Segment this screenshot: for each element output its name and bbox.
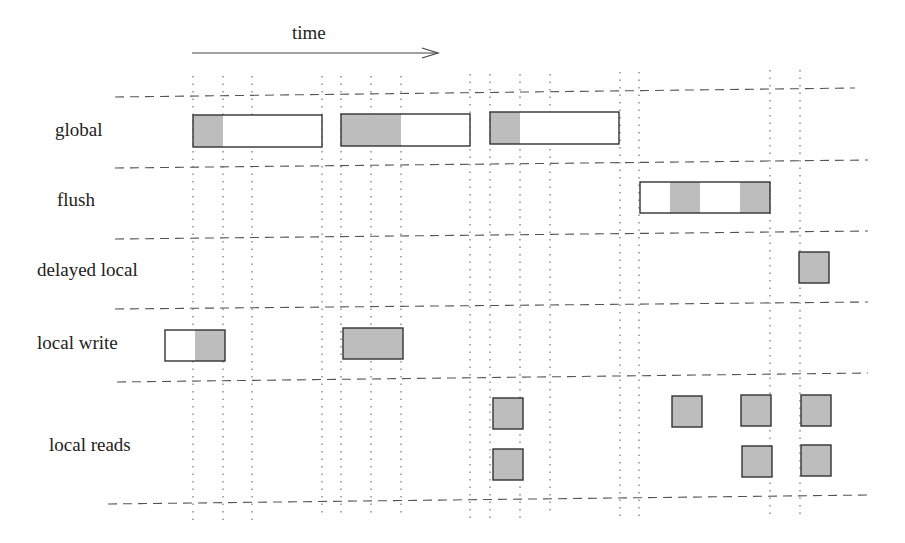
operation-box-flush	[640, 182, 770, 213]
operation-box-local-write	[343, 328, 403, 359]
time-axis-label: time	[292, 22, 326, 44]
row-label-local-write: local write	[37, 332, 118, 354]
row-separator	[115, 88, 855, 97]
operation-boxes	[165, 112, 831, 480]
operation-box-local-reads	[493, 449, 523, 480]
row-label-global: global	[55, 119, 103, 141]
row-label-flush: flush	[57, 189, 95, 211]
operation-box-global	[193, 115, 322, 147]
operation-box-local-reads	[801, 445, 831, 476]
row-separator	[117, 373, 868, 382]
operation-box-local-reads	[672, 396, 702, 427]
operation-box-delayed-local	[799, 252, 829, 283]
row-separator	[115, 160, 868, 168]
operation-box-local-reads	[493, 398, 523, 429]
row-separator	[108, 495, 870, 504]
operation-box-global	[341, 114, 470, 146]
time-arrow	[192, 48, 438, 58]
operation-box-local-write	[165, 330, 225, 361]
row-separator	[115, 302, 868, 309]
row-separator-lines	[108, 88, 870, 504]
row-label-delayed-local: delayed local	[37, 259, 138, 281]
operation-box-global	[490, 112, 619, 144]
operation-box-local-reads	[742, 446, 772, 477]
row-label-local-reads: local reads	[49, 434, 131, 456]
operation-box-local-reads	[801, 395, 831, 426]
row-separator	[115, 231, 868, 239]
operation-box-local-reads	[741, 395, 771, 426]
